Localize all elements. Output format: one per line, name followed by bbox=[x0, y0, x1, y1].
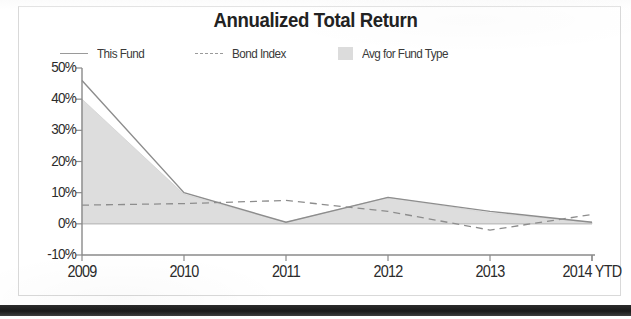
y-axis-tick-label: 40% bbox=[26, 89, 76, 106]
series-area-avg-for-fund-type bbox=[82, 99, 592, 224]
x-axis-labels: 200920102011201220132014 YTD bbox=[0, 263, 631, 291]
y-axis-labels: 50%40%30%20%10%0%-10% bbox=[14, 0, 76, 300]
y-axis-tick-label: 50% bbox=[26, 58, 76, 75]
annualized-total-return-chart: Annualized Total Return This Fund Bond I… bbox=[0, 0, 631, 300]
scanned-page: Annualized Total Return This Fund Bond I… bbox=[0, 0, 631, 319]
x-axis-tick-label: 2010 bbox=[135, 263, 234, 281]
x-axis-tick-label: 2009 bbox=[33, 263, 132, 281]
y-axis-tick-label: -10% bbox=[26, 245, 76, 262]
plot-series-group bbox=[76, 68, 595, 261]
y-axis-tick-label: 30% bbox=[26, 120, 76, 137]
page-bottom-dark-bar bbox=[0, 305, 631, 316]
y-axis-tick-label: 0% bbox=[26, 214, 76, 231]
x-axis-tick-label: 2012 bbox=[339, 263, 438, 281]
y-axis-tick-label: 20% bbox=[26, 152, 76, 169]
plot-area bbox=[0, 0, 631, 300]
y-axis-tick-label: 10% bbox=[26, 183, 76, 200]
x-axis-tick-label: 2011 bbox=[237, 263, 336, 281]
x-axis-tick-label: 2013 bbox=[441, 263, 540, 281]
x-axis-tick-label: 2014 YTD bbox=[543, 263, 631, 281]
